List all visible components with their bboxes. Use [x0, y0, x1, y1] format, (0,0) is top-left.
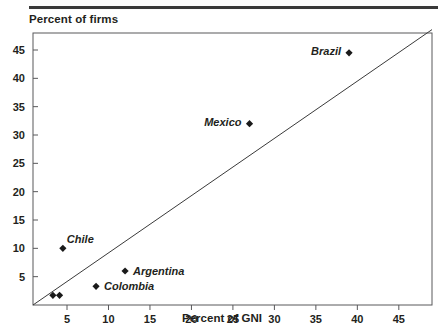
y-tick-label: 10	[13, 242, 25, 254]
y-tick-label: 30	[13, 129, 25, 141]
plot-svg: 5101520253035404551015202530354045 Brazi…	[0, 0, 444, 335]
trend-line	[33, 30, 432, 305]
y-tick-label: 20	[13, 186, 25, 198]
y-tick-label: 5	[19, 271, 25, 283]
data-point-marker	[56, 292, 63, 299]
y-tick-marks	[33, 50, 38, 277]
scatter-plot: 5101520253035404551015202530354045 Brazi…	[0, 0, 444, 335]
data-point-marker	[121, 267, 128, 274]
y-tick-label: 40	[13, 72, 25, 84]
data-point-marker	[92, 283, 99, 290]
data-markers	[49, 49, 352, 299]
point-label: Brazil	[311, 45, 342, 57]
trend-line-path	[33, 30, 432, 305]
data-point-marker	[246, 120, 253, 127]
y-tick-label: 45	[13, 44, 25, 56]
data-point-marker	[345, 49, 352, 56]
y-tick-label: 25	[13, 157, 25, 169]
data-point-marker	[59, 245, 66, 252]
x-tick-marks	[67, 305, 399, 310]
point-label: Chile	[67, 233, 94, 245]
y-tick-label: 35	[13, 101, 25, 113]
point-labels: BrazilMexicoChileArgentinaColombia	[67, 45, 342, 292]
tick-labels: 5101520253035404551015202530354045	[13, 44, 405, 325]
point-label: Mexico	[204, 116, 242, 128]
y-tick-label: 15	[13, 214, 25, 226]
point-label: Colombia	[104, 280, 154, 292]
x-axis-title: Percent of GNI	[0, 312, 444, 324]
point-label: Argentina	[132, 265, 184, 277]
